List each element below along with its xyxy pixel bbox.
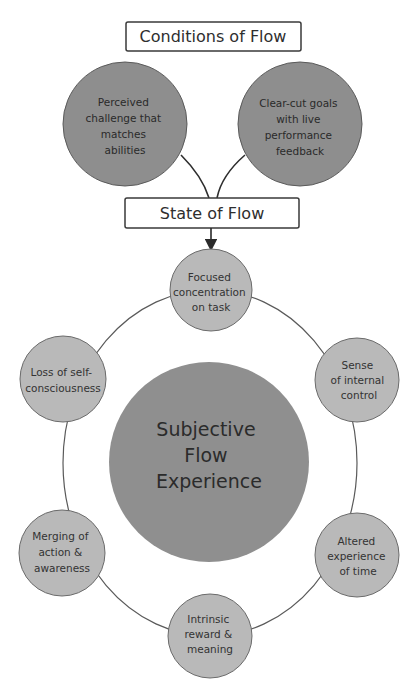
outcome-internal-control: Sense of internal control xyxy=(315,338,399,422)
state-of-flow-label: State of Flow xyxy=(160,204,264,223)
subjective-flow-experience: Subjective Flow Experience xyxy=(109,362,309,562)
condition-challenge-skill: Perceived challenge that matches abiliti… xyxy=(63,62,187,186)
outcome-focused-concentration: Focused concentration on task xyxy=(170,249,252,331)
outcome-loss-self-consciousness: Loss of self- consciousness xyxy=(20,336,106,422)
conditions-of-flow-box: Conditions of Flow xyxy=(126,22,301,51)
outcome-altered-time: Altered experience of time xyxy=(315,513,399,597)
outcome-label: Intrinsic reward & meaning xyxy=(184,613,235,655)
conditions-of-flow-label: Conditions of Flow xyxy=(140,27,287,46)
flow-diagram: Conditions of Flow Perceived challenge t… xyxy=(0,0,419,689)
condition-clear-goals: Clear-cut goals with live performance fe… xyxy=(238,62,362,186)
connector-left xyxy=(181,155,209,198)
state-of-flow-box: State of Flow xyxy=(125,198,299,228)
outcome-label: Merging of action & awareness xyxy=(32,530,91,574)
connector-right xyxy=(217,155,245,198)
outcome-merging-action-awareness: Merging of action & awareness xyxy=(19,510,105,596)
outcome-intrinsic-reward: Intrinsic reward & meaning xyxy=(168,594,252,678)
